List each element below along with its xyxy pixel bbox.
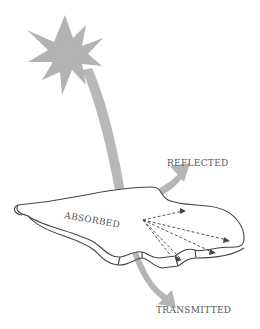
leaf [15,187,245,268]
reflected-label: REFLECTED [167,158,229,168]
light-leaf-diagram: REFLECTED ABSORBED TRANSMITTED [0,0,260,329]
transmitted-label: TRANSMITTED [156,305,231,315]
